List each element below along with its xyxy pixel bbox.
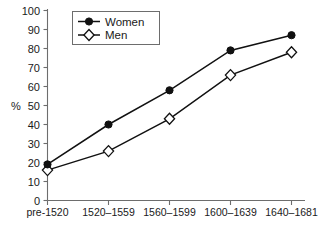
legend-label-men: Men [105,29,127,41]
data-point-men-1560-1599 [164,113,174,124]
y-tick-label-80: 80 [28,43,40,55]
x-tick-marks [48,201,292,206]
x-tick-label-1520-1559: 1520–1559 [82,206,135,218]
y-axis-label: % [11,100,21,112]
legend-label-women: Women [105,16,144,28]
y-tick-label-30: 30 [28,138,40,150]
y-tick-label-0: 0 [34,195,40,207]
data-point-women-1560-1599 [166,87,173,94]
data-point-men-1600-1639 [225,70,235,81]
x-tick-label-1640-1681: 1640–1681 [265,206,318,218]
data-point-men-1520-1559 [103,146,113,157]
line-chart: 100 90 80 70 60 50 40 30 20 10 0 % pre-1… [0,0,332,230]
y-tick-label-10: 10 [28,176,40,188]
data-point-men-1640-1681 [286,47,296,58]
series-markers-women [44,32,295,168]
y-tick-label-40: 40 [28,119,40,131]
chart-legend: Women Men [73,12,160,45]
series-line-men [48,52,292,170]
data-point-women-1640-1681 [288,32,295,39]
series-line-women [48,35,292,164]
y-tick-label-90: 90 [28,24,40,36]
x-tick-label-1600-1639: 1600–1639 [204,206,257,218]
legend-marker-filled-circle-icon [85,18,92,25]
chart-canvas: 100 90 80 70 60 50 40 30 20 10 0 % pre-1… [0,0,332,230]
x-tick-label-1560-1599: 1560–1599 [143,206,196,218]
data-point-women-1600-1639 [227,47,234,54]
series-markers-men [42,47,296,176]
y-tick-label-20: 20 [28,157,40,169]
data-point-women-1520-1559 [105,121,112,128]
data-point-women-pre-1520 [44,161,51,168]
y-tick-label-50: 50 [28,100,40,112]
y-tick-label-60: 60 [28,81,40,93]
y-tick-label-70: 70 [28,62,40,74]
y-tick-label-100: 100 [22,5,40,17]
x-tick-label-pre-1520: pre-1520 [26,206,68,218]
